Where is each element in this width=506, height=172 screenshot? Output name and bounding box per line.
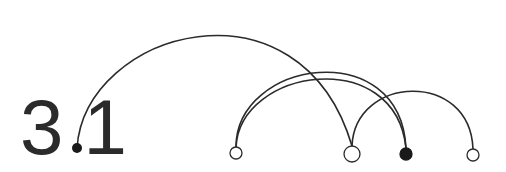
version-label: 31 <box>20 88 133 166</box>
version-minor: 1 <box>83 83 132 171</box>
version-major: 3 <box>20 83 69 171</box>
arc-n2-to-n4 <box>352 91 473 149</box>
node-n1 <box>230 147 242 159</box>
node-n3 <box>400 148 412 160</box>
arc-diagram: 31 <box>0 0 506 172</box>
node-n2 <box>344 146 360 162</box>
arc-n1-to-n3-inner <box>236 79 406 148</box>
node-n4 <box>467 149 479 161</box>
